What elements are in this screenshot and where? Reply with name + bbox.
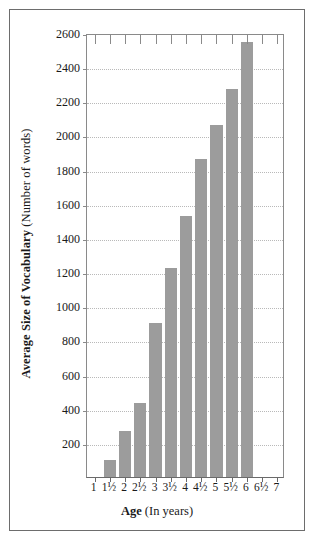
top-axis-tick-mark	[125, 35, 126, 44]
top-axis-tick-mark	[171, 35, 172, 44]
bar	[119, 431, 131, 477]
y-axis-tick-mark	[83, 103, 87, 104]
x-axis-tick-label: 6½	[254, 482, 268, 494]
y-axis-tick-mark	[83, 206, 87, 207]
y-axis-tick-mark	[83, 377, 87, 378]
y-axis-tick-mark	[83, 35, 87, 36]
y-axis-tick-mark	[83, 172, 87, 173]
gridline	[87, 206, 283, 207]
y-axis-tick-labels: 2004006008001000120014001600180020002200…	[30, 34, 80, 478]
x-axis-tick-label: 1½	[102, 482, 116, 494]
y-axis-tick-label: 800	[34, 335, 80, 347]
x-axis-title: Age (In years)	[9, 504, 305, 519]
x-axis-tick-label: 2½	[132, 482, 146, 494]
bar	[165, 268, 177, 477]
top-axis-tick-mark	[186, 35, 187, 44]
bar	[149, 323, 161, 477]
top-axis-tick-mark	[140, 35, 141, 44]
top-axis-tick-mark	[110, 35, 111, 44]
x-axis-title-bold: Age	[121, 504, 142, 518]
y-axis-tick-mark	[83, 69, 87, 70]
y-axis-tick-mark	[83, 445, 87, 446]
bar	[210, 125, 222, 477]
y-axis-tick-label: 1600	[34, 199, 80, 211]
y-axis-tick-label: 2400	[34, 62, 80, 74]
y-axis-tick-mark	[83, 411, 87, 412]
y-axis-tick-mark	[83, 308, 87, 309]
x-axis-tick-label: 3	[152, 482, 158, 494]
y-axis-tick-mark	[83, 274, 87, 275]
x-axis-tick-label: 4	[182, 482, 188, 494]
x-axis-tick-label: 7	[274, 482, 280, 494]
bar	[226, 89, 238, 478]
figure: Average Size of Vocabulary (Number of wo…	[0, 0, 317, 558]
top-axis-tick-mark	[247, 35, 248, 44]
y-axis-tick-mark	[83, 342, 87, 343]
x-axis-tick-label: 4½	[193, 482, 207, 494]
bar	[195, 159, 207, 477]
top-axis-tick-mark	[262, 35, 263, 44]
x-axis-tick-label: 5½	[224, 482, 238, 494]
y-axis-tick-label: 1000	[34, 301, 80, 313]
top-axis-tick-mark	[95, 35, 96, 44]
y-axis-tick-mark	[83, 137, 87, 138]
top-axis-tick-mark	[277, 35, 278, 44]
x-axis-tick-label: 2	[121, 482, 127, 494]
x-axis-tick-label: 6	[243, 482, 249, 494]
y-axis-tick-label: 1800	[34, 165, 80, 177]
x-axis-tick-labels: 11½22½33½44½55½66½7	[86, 482, 284, 498]
y-axis-tick-label: 600	[34, 370, 80, 382]
y-axis-tick-label: 2200	[34, 96, 80, 108]
bar	[180, 216, 192, 477]
y-axis-tick-label: 200	[34, 438, 80, 450]
y-axis-tick-label: 1400	[34, 233, 80, 245]
bar	[134, 403, 146, 477]
bar	[104, 460, 116, 477]
top-axis-tick-mark	[232, 35, 233, 44]
y-axis-tick-label: 1200	[34, 267, 80, 279]
top-axis-tick-mark	[216, 35, 217, 44]
gridline	[87, 172, 283, 173]
y-axis-tick-label: 400	[34, 404, 80, 416]
x-axis-title-rest: (In years)	[142, 504, 193, 518]
x-axis-tick-label: 1	[91, 482, 97, 494]
gridline	[87, 103, 283, 104]
gridline	[87, 137, 283, 138]
gridline	[87, 69, 283, 70]
bar	[241, 42, 253, 477]
top-axis-tick-mark	[201, 35, 202, 44]
y-axis-tick-label: 2000	[34, 130, 80, 142]
top-axis-tick-mark	[156, 35, 157, 44]
x-axis-tick-label: 3½	[163, 482, 177, 494]
plot-area	[86, 34, 284, 478]
y-axis-tick-label: 2600	[34, 28, 80, 40]
y-axis-tick-mark	[83, 240, 87, 241]
x-axis-tick-label: 5	[213, 482, 219, 494]
